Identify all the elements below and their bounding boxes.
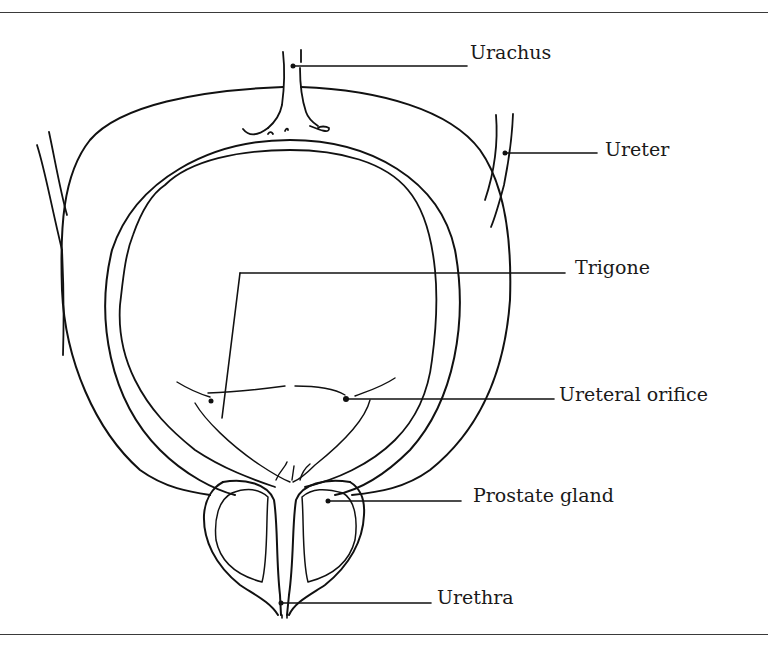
trigone-structure [177,378,395,482]
middle-bladder-wall [105,140,460,495]
bladder-mucosa [120,150,437,487]
outer-bladder-wall [61,87,510,495]
label-urachus: Urachus [470,43,551,62]
label-ureteral-orifice: Ureteral orifice [559,385,708,404]
label-trigone: Trigone [575,258,650,277]
bladder-illustration [0,0,768,648]
label-prostate-gland: Prostate gland [473,486,614,505]
right-ureter [485,114,513,227]
diagram-frame: Urachus Ureter Trigone Ureteral orifice … [0,0,768,648]
label-ureter: Ureter [605,140,669,159]
leader-dots [209,64,508,606]
leader-lines [222,66,597,603]
label-urethra: Urethra [437,588,514,607]
urethra-structure [281,615,287,618]
prostate-inner-lobes [216,490,357,582]
urachus-structure [243,50,329,134]
